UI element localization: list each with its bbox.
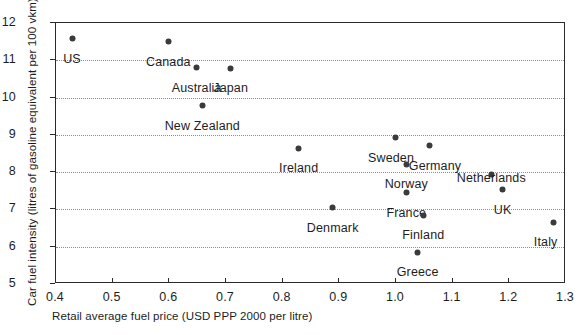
x-axis-title: Retail average fuel price (USD PPP 2000 … xyxy=(52,310,312,322)
data-point-label: Canada xyxy=(146,55,191,69)
data-point xyxy=(70,36,75,41)
x-tick-mark-0.7 xyxy=(225,278,226,283)
data-point-label: UK xyxy=(494,203,512,217)
data-point-label: Japan xyxy=(213,81,248,95)
y-tick-label-7: 7 xyxy=(0,201,16,215)
data-point-label: Greece xyxy=(397,265,439,279)
plot-area xyxy=(55,22,565,283)
data-point-label: New Zealand xyxy=(165,119,240,133)
gridline-y-7 xyxy=(56,209,564,210)
y-tick-mark-12 xyxy=(50,22,55,23)
data-point-label: Denmark xyxy=(307,221,359,235)
scatter-chart: 567891011120.40.50.60.70.80.91.01.11.21.… xyxy=(0,0,584,335)
data-point-label: Finland xyxy=(402,228,444,242)
y-tick-label-5: 5 xyxy=(0,276,16,290)
data-point xyxy=(228,66,233,71)
data-point-label: Italy xyxy=(534,235,558,249)
x-tick-label-1.3: 1.3 xyxy=(541,290,584,304)
y-tick-mark-10 xyxy=(50,97,55,98)
data-point xyxy=(551,220,556,225)
x-tick-mark-0.6 xyxy=(168,278,169,283)
x-tick-mark-1.1 xyxy=(452,278,453,283)
data-point xyxy=(421,213,426,218)
x-tick-label-0.8: 0.8 xyxy=(258,290,306,304)
data-point xyxy=(393,135,398,140)
x-tick-label-0.6: 0.6 xyxy=(144,290,192,304)
data-point-label: US xyxy=(63,52,81,66)
y-tick-mark-6 xyxy=(50,246,55,247)
x-tick-label-0.4: 0.4 xyxy=(31,290,79,304)
data-point-label: Germany xyxy=(409,159,461,173)
x-tick-mark-1.2 xyxy=(508,278,509,283)
x-tick-label-1: 1.0 xyxy=(371,290,419,304)
x-tick-label-1.1: 1.1 xyxy=(428,290,476,304)
x-tick-label-0.7: 0.7 xyxy=(201,290,249,304)
y-tick-mark-11 xyxy=(50,59,55,60)
y-tick-label-8: 8 xyxy=(0,164,16,178)
data-point xyxy=(296,146,301,151)
data-point xyxy=(415,250,420,255)
data-point xyxy=(404,162,409,167)
y-tick-mark-9 xyxy=(50,134,55,135)
data-point-label: Ireland xyxy=(279,161,318,175)
x-tick-mark-0.8 xyxy=(282,278,283,283)
x-tick-label-1.2: 1.2 xyxy=(484,290,532,304)
x-tick-label-0.5: 0.5 xyxy=(88,290,136,304)
gridline-y-9 xyxy=(56,135,564,136)
y-tick-label-12: 12 xyxy=(0,15,16,29)
y-tick-label-10: 10 xyxy=(0,90,16,104)
x-tick-mark-0.5 xyxy=(112,278,113,283)
x-tick-label-0.9: 0.9 xyxy=(314,290,362,304)
x-tick-mark-0.9 xyxy=(338,278,339,283)
gridline-y-11 xyxy=(56,60,564,61)
data-point xyxy=(427,143,432,148)
y-tick-mark-7 xyxy=(50,208,55,209)
y-tick-label-11: 11 xyxy=(0,52,16,66)
gridline-y-10 xyxy=(56,98,564,99)
y-tick-label-6: 6 xyxy=(0,239,16,253)
data-point-label: Netherlands xyxy=(457,171,526,185)
gridline-y-6 xyxy=(56,247,564,248)
y-tick-mark-8 xyxy=(50,171,55,172)
y-axis-title: Car fuel intensity (litres of gasoline e… xyxy=(26,6,38,306)
y-tick-mark-5 xyxy=(50,283,55,284)
data-point-label: France xyxy=(386,206,426,220)
y-tick-label-9: 9 xyxy=(0,127,16,141)
